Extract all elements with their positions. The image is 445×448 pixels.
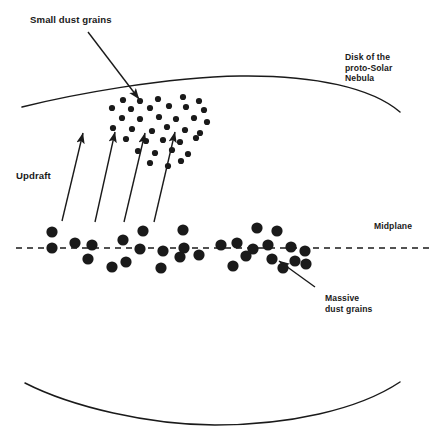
- disk-label-line-2: proto-Solar: [345, 63, 392, 73]
- dust-grain-dot: [251, 222, 262, 233]
- dust-grain-dot: [147, 105, 153, 111]
- dust-grain-dot: [46, 242, 57, 253]
- dust-grain-dot: [135, 148, 141, 154]
- disk-upper-surface-curve: [22, 76, 400, 112]
- dust-grain-dot: [240, 250, 251, 261]
- dust-grain-dot: [262, 239, 273, 250]
- dust-settling-diagram: Small dust grains Disk of theproto-Solar…: [0, 0, 445, 448]
- dust-grain-dot: [106, 261, 117, 272]
- dust-grain-dot: [129, 126, 135, 132]
- dust-grain-dot: [173, 116, 179, 122]
- dust-grain-dot: [299, 245, 310, 256]
- dust-grain-dot: [110, 125, 116, 131]
- dust-grain-dot: [156, 114, 162, 120]
- dust-grain-dot: [160, 137, 166, 143]
- dust-grain-dot: [69, 237, 80, 248]
- dust-grain-dot: [143, 138, 149, 144]
- dust-grain-dot: [86, 239, 97, 250]
- dust-grain-dot: [137, 98, 143, 104]
- dust-grain-dot: [137, 116, 143, 122]
- dust-grain-dot: [227, 260, 238, 271]
- dust-grain-dot: [120, 97, 126, 103]
- dust-grain-dot: [231, 237, 242, 248]
- updraft-arrows: [62, 132, 175, 222]
- dust-grain-dot: [137, 225, 148, 236]
- dust-grain-dot: [147, 160, 153, 166]
- dust-grain-dot: [177, 139, 183, 145]
- dust-grain-dot: [215, 239, 226, 250]
- dust-grain-dot: [117, 234, 128, 245]
- dust-grain-dot: [197, 130, 203, 136]
- dust-grain-dot: [300, 258, 311, 269]
- dust-grain-dot: [285, 241, 296, 252]
- dust-grain-dot: [152, 150, 158, 156]
- dust-grain-dot: [128, 106, 134, 112]
- updraft-label: Updraft: [16, 170, 51, 182]
- updraft-arrow-3: [124, 133, 145, 222]
- massive-dust-grains-label: Massivedust grains: [325, 293, 372, 314]
- updraft-arrow-2: [95, 132, 115, 222]
- dust-grain-dot: [183, 104, 189, 110]
- disk-of-proto-solar-nebula-label: Disk of theproto-SolarNebula: [345, 52, 392, 84]
- dust-grain-dot: [277, 262, 288, 273]
- dust-grain-dot: [193, 135, 199, 141]
- massive-label-line-1: Massive: [325, 293, 359, 303]
- small-dust-grain-cloud: [109, 94, 210, 169]
- dust-grain-dot: [289, 255, 300, 266]
- updraft-arrow-4: [154, 132, 175, 222]
- dust-grain-dot: [174, 251, 185, 262]
- dust-grain-dot: [82, 253, 93, 264]
- disk-label-line-3: Nebula: [345, 73, 374, 83]
- dust-grain-dot: [182, 127, 188, 133]
- dust-grain-dot: [180, 94, 186, 100]
- midplane-label: Midplane: [374, 221, 412, 232]
- small-dust-grains-label: Small dust grains: [30, 14, 112, 26]
- dust-grain-dot: [191, 115, 197, 121]
- dust-grain-dot: [109, 105, 115, 111]
- dust-grain-dot: [166, 103, 172, 109]
- dust-grain-dot: [169, 147, 175, 153]
- dust-grain-dot: [134, 243, 145, 254]
- dust-grain-dot: [178, 158, 184, 164]
- dust-grain-dot: [266, 253, 277, 264]
- massive-label-line-2: dust grains: [325, 304, 372, 314]
- dust-grain-dot: [204, 119, 210, 125]
- dust-grain-dot: [185, 151, 191, 157]
- dust-grain-dot: [164, 124, 170, 130]
- dust-grain-dot: [123, 136, 129, 142]
- dust-grain-dot: [155, 96, 161, 102]
- disk-lower-surface-curve: [25, 382, 400, 425]
- disk-label-line-1: Disk of the: [345, 52, 390, 62]
- dust-grain-dot: [120, 256, 131, 267]
- updraft-arrow-1: [62, 133, 83, 221]
- dust-grain-dot: [271, 225, 282, 236]
- dust-grain-dot: [155, 262, 166, 273]
- dust-grain-dot: [149, 128, 155, 134]
- dust-grain-dot: [193, 249, 204, 260]
- dust-grain-dot: [119, 115, 125, 121]
- dust-grain-dot: [201, 107, 207, 113]
- dust-grain-dot: [46, 226, 57, 237]
- dust-grain-dot: [157, 245, 168, 256]
- dust-grain-dot: [165, 163, 171, 169]
- dust-grain-dot: [177, 224, 188, 235]
- dust-grain-dot: [196, 98, 202, 104]
